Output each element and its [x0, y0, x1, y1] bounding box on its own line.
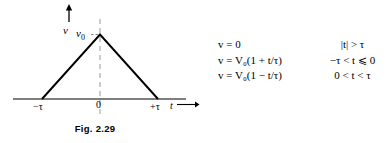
v-axis-arrow-head	[66, 4, 72, 11]
left-tick-label: −τ	[33, 101, 43, 112]
figure-panel: v v0 0 −τ +τ t Fig. 2.29	[0, 0, 200, 143]
equation-row: v = V₀(1 + t/τ) −τ < t ⩽ 0	[218, 54, 387, 70]
figure-caption: Fig. 2.29	[0, 123, 190, 134]
peak-amplitude-label: v0	[76, 27, 85, 42]
t-axis-arrow-head	[195, 102, 200, 108]
equation-condition: |t| > τ	[318, 38, 387, 50]
figure-page: v v0 0 −τ +τ t Fig. 2.29 v = 0 |t| > τ v…	[0, 0, 387, 143]
equation-expression: v = V₀(1 − t/τ)	[218, 69, 318, 81]
equation-row: v = V₀(1 − t/τ) 0 < t < τ	[218, 69, 387, 85]
equation-expression: v = 0	[218, 38, 318, 50]
equations-panel: v = 0 |t| > τ v = V₀(1 + t/τ) −τ < t ⩽ 0…	[218, 38, 387, 85]
equation-condition: −τ < t ⩽ 0	[318, 54, 387, 67]
t-axis-label: t	[170, 100, 173, 111]
triangular-pulse-plot	[0, 0, 200, 143]
peak-amplitude-subscript: 0	[81, 33, 85, 42]
v-axis-label: v	[63, 24, 68, 36]
origin-label: 0	[96, 99, 101, 110]
equation-expression: v = V₀(1 + t/τ)	[218, 54, 318, 66]
equation-row: v = 0 |t| > τ	[218, 38, 387, 54]
equation-condition: 0 < t < τ	[318, 69, 387, 81]
right-tick-label: +τ	[150, 101, 160, 112]
